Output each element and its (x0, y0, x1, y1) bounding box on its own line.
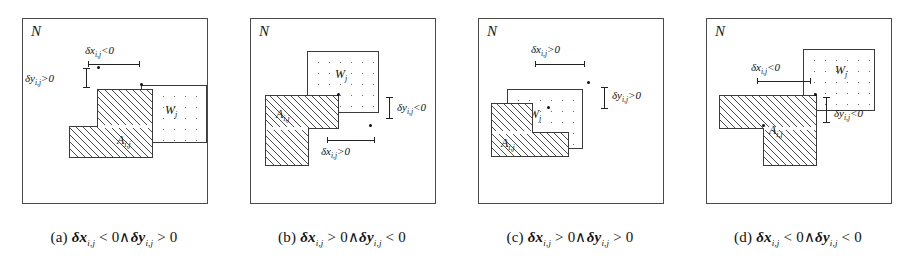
panel-a: N Wj Ai,j δxi,j<0 (0, 0, 228, 276)
dy-label-c: δyi,j>0 (612, 89, 641, 104)
dy-symbol-b: δy (397, 101, 407, 113)
caption-dy-sub-d: i,j (830, 238, 838, 248)
shape-wj-letter-d: W (835, 63, 845, 77)
corner-dot-ref-b (369, 124, 372, 127)
dx-tick-left-b (327, 137, 328, 143)
corner-dot-wj-a (140, 83, 143, 86)
caption-dy-relation-d: < 0 (842, 229, 862, 245)
shape-aij-sub-c: i,j (508, 143, 514, 152)
shape-aij-label-d: Ai,j (769, 123, 783, 139)
shape-aij-seam-c (492, 131, 532, 134)
dx-relation-d: <0 (767, 61, 780, 73)
caption-dx-sub-c: i,j (543, 238, 551, 248)
dx-measure-bar-a (88, 61, 140, 67)
dy-tick-bottom-d (823, 122, 830, 123)
caption-dy-sub-b: i,j (374, 238, 382, 248)
dy-tick-top-d (823, 97, 830, 98)
corner-dot-wj-c (547, 106, 550, 109)
caption-dy-relation-c: > 0 (613, 229, 633, 245)
dx-label-c: δxi,j>0 (531, 43, 560, 58)
caption-index-b: (b) (278, 229, 296, 245)
figure-container: N Wj Ai,j δxi,j<0 (0, 0, 912, 276)
shape-aij-lower-a (69, 126, 153, 158)
caption-index-a: (a) (51, 229, 68, 245)
shape-wj-label-b: Wj (335, 67, 347, 83)
panel-d: N Wj Ai,j δxi,j<0 (684, 0, 912, 276)
caption-dx-symbol-d: δx (756, 229, 772, 245)
dy-measure-bar-c (601, 87, 608, 109)
dx-measure-bar-c (535, 61, 585, 67)
panel-b: N Wj Ai,j δyi,j<0 (228, 0, 456, 276)
dy-relation-d: <0 (850, 107, 863, 119)
neighborhood-frame-d: N Wj Ai,j δxi,j<0 (706, 18, 892, 204)
dx-tick-right-b (374, 137, 375, 143)
caption-a: (a) δxi,j < 0∧δyi,j > 0 (0, 228, 228, 248)
caption-dx-sub-d: i,j (772, 238, 780, 248)
shape-aij-arm-d (719, 95, 817, 129)
caption-d: (d) δxi,j < 0∧δyi,j < 0 (684, 228, 912, 248)
shape-aij-lower-b (265, 128, 309, 166)
dy-symbol-a: δy (25, 72, 35, 84)
caption-conj-d: ∧ (804, 229, 815, 245)
shape-wj-letter-a: W (165, 103, 175, 117)
caption-conj-b: ∧ (348, 229, 359, 245)
shape-wj-sub-b: j (345, 74, 347, 83)
shape-aij-label-b: Ai,j (276, 107, 290, 123)
corner-dot-ref-d (762, 124, 765, 127)
dy-measure-bar-a (83, 68, 90, 88)
shape-wj-label-d: Wj (835, 63, 847, 79)
caption-dy-relation-b: < 0 (386, 229, 406, 245)
caption-index-c: (c) (507, 229, 524, 245)
dy-tick-top-a (83, 68, 90, 69)
caption-b: (b) δxi,j > 0∧δyi,j < 0 (228, 228, 456, 248)
caption-dx-symbol-c: δx (528, 229, 544, 245)
frame-label-n-c: N (487, 23, 497, 40)
caption-dy-sub-c: i,j (601, 238, 609, 248)
caption-dx-relation-d: < 0 (784, 229, 804, 245)
dy-tick-bottom-c (601, 108, 608, 109)
caption-dy-relation-a: > 0 (157, 229, 177, 245)
caption-dy-symbol-b: δy (359, 229, 374, 245)
shape-wj-label-a: Wj (165, 103, 177, 119)
dy-relation-b: <0 (413, 101, 426, 113)
frame-label-n-b: N (259, 23, 269, 40)
dy-measure-bar-b (386, 97, 393, 119)
caption-index-d: (d) (734, 229, 752, 245)
caption-dx-sub-b: i,j (316, 238, 324, 248)
dy-symbol-d: δy (834, 107, 844, 119)
shape-aij-upper-a (97, 89, 153, 127)
caption-dx-symbol-b: δx (300, 229, 316, 245)
caption-dx-relation-c: > 0 (555, 229, 575, 245)
caption-dx-relation-a: < 0 (99, 229, 119, 245)
dx-measure-bar-b (327, 137, 375, 143)
shape-aij-seam-b (266, 127, 308, 130)
shape-aij-label-a: Ai,j (117, 133, 131, 149)
shape-aij-label-c: Ai,j (501, 136, 515, 152)
corner-dot-wj-d (814, 93, 817, 96)
frame-label-n-a: N (31, 23, 41, 40)
caption-conj-a: ∧ (119, 229, 130, 245)
dy-measure-bar-d (823, 97, 830, 123)
dx-relation-a: <0 (101, 44, 114, 56)
frame-label-n-d: N (715, 23, 725, 40)
caption-dx-relation-b: > 0 (328, 229, 348, 245)
neighborhood-frame-a: N Wj Ai,j δxi,j<0 (22, 18, 208, 204)
dx-tick-right-a (139, 61, 140, 67)
shape-wj-sub-a: j (175, 110, 177, 119)
dx-tick-left-c (535, 61, 536, 67)
shape-aij-sub-a: i,j (124, 140, 130, 149)
dx-symbol-b: δx (321, 145, 331, 157)
dy-relation-a: >0 (41, 72, 54, 84)
corner-dot-ref-c (587, 81, 590, 84)
dy-label-a: δyi,j>0 (25, 72, 54, 87)
caption-dy-sub-a: i,j (145, 238, 153, 248)
dy-relation-c: >0 (628, 89, 641, 101)
dx-measure-bar-d (757, 78, 811, 84)
dy-symbol-c: δy (612, 89, 622, 101)
caption-dy-symbol-d: δy (815, 229, 830, 245)
dx-tick-right-d (810, 78, 811, 84)
dx-label-a: δxi,j<0 (85, 44, 114, 59)
dy-label-b: δyi,j<0 (397, 101, 426, 116)
caption-c: (c) δxi,j > 0∧δyi,j > 0 (456, 228, 684, 248)
dy-label-d: δyi,j<0 (834, 107, 863, 122)
